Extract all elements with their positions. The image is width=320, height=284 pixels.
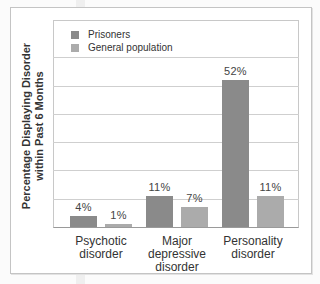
y-axis-label-line-1: Percentage Displaying Disorder <box>20 43 33 209</box>
bar-prisoners-0 <box>70 216 97 227</box>
bar-value-label: 4% <box>64 201 104 213</box>
gridline-60 <box>53 57 299 58</box>
legend-swatch-general-population <box>71 44 79 52</box>
bar-value-label: 7% <box>175 192 215 204</box>
bar-prisoners-1 <box>146 196 173 227</box>
gridline-50 <box>53 86 299 87</box>
bar-value-label: 52% <box>216 65 256 77</box>
legend-item-general-population: General population <box>71 42 173 53</box>
page-background-strip-top <box>76 0 85 7</box>
bar-prisoners-2 <box>222 80 249 227</box>
gridline-30 <box>53 142 299 143</box>
y-axis-label: Percentage Displaying Disorder within Pa… <box>20 43 46 209</box>
legend-swatch-prisoners <box>71 31 79 39</box>
bar-value-label: 11% <box>140 181 180 193</box>
y-axis-label-line-2: within Past 6 Months <box>33 43 46 209</box>
bar-general-population-2 <box>257 196 284 227</box>
legend-label-prisoners: Prisoners <box>88 29 130 40</box>
legend-item-prisoners: Prisoners <box>71 29 130 40</box>
bar-value-label: 1% <box>99 209 139 221</box>
gridline-40 <box>53 114 299 115</box>
legend-label-general-population: General population <box>88 42 173 53</box>
page-background-strip-bottom <box>76 275 85 284</box>
bar-general-population-1 <box>181 207 208 227</box>
category-label-2: Personalitydisorder <box>208 235 298 261</box>
bar-general-population-0 <box>105 224 132 227</box>
bar-value-label: 11% <box>251 181 291 193</box>
gridline-20 <box>53 170 299 171</box>
